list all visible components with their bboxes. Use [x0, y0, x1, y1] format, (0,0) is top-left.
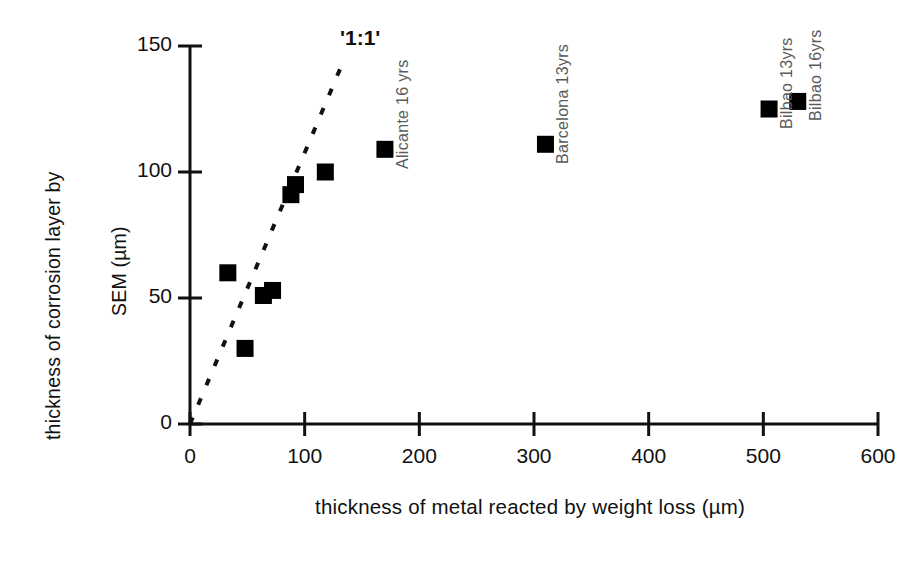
data-marker: [264, 282, 281, 299]
data-marker: [317, 164, 334, 181]
data-marker: [376, 141, 393, 158]
one-to-one-reference-line: [190, 69, 340, 424]
data-marker: [537, 136, 554, 153]
point-annotation: Barcelona 13yrs: [554, 44, 572, 164]
y-tick-label-100: 100: [112, 158, 172, 182]
x-tick-label-400: 400: [619, 444, 679, 468]
x-axis-title: thickness of metal reacted by weight los…: [150, 495, 910, 519]
point-annotation: Bilbao 13yrs: [778, 37, 796, 129]
data-marker: [761, 101, 778, 118]
point-annotation: Bilbao 16yrs: [807, 30, 825, 122]
scatter-plot-figure: thickness of corrosion layer by SEM (µm)…: [0, 0, 923, 568]
data-marker: [237, 340, 254, 357]
point-annotation: Alicante 16 yrs: [394, 60, 412, 169]
y-tick-label-50: 50: [112, 284, 172, 308]
x-tick-label-0: 0: [160, 444, 220, 468]
x-tick-label-600: 600: [848, 444, 908, 468]
reference-line-dashed: [190, 69, 340, 424]
y-tick-label-150: 150: [112, 32, 172, 56]
one-to-one-label: '1:1': [340, 26, 380, 50]
x-tick-label-500: 500: [733, 444, 793, 468]
data-marker: [219, 264, 236, 281]
x-tick-label-100: 100: [275, 444, 335, 468]
y-tick-label-0: 0: [112, 410, 172, 434]
x-tick-label-200: 200: [389, 444, 449, 468]
data-marker: [287, 176, 304, 193]
data-markers: [219, 93, 806, 357]
x-tick-label-300: 300: [504, 444, 564, 468]
